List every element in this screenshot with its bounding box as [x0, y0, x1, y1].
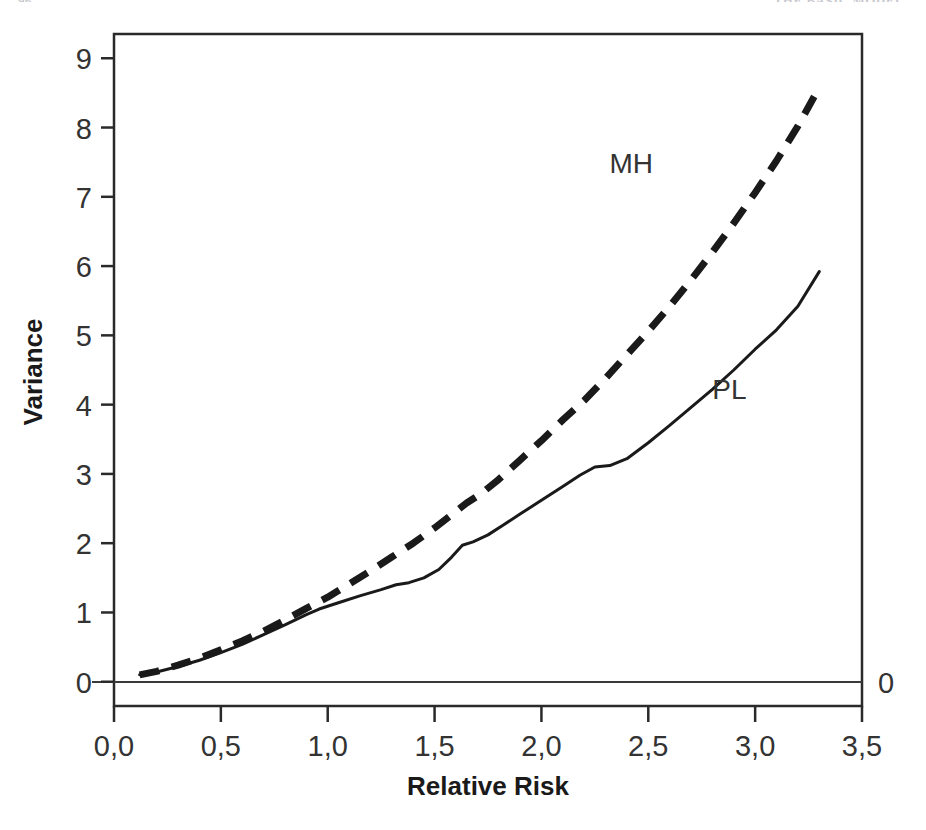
y-tick-label-2: 2: [76, 528, 92, 560]
y-axis-tick-labels: 0123456789: [76, 43, 92, 699]
figure-page: 96 THE BASIC MODEL 0123456789 0,00,51,01…: [0, 0, 926, 830]
x-axis-ticks: [114, 706, 862, 722]
y-tick-label-8: 8: [76, 113, 92, 145]
y-tick-label-3: 3: [76, 459, 92, 491]
x-tick-label-1,0: 1,0: [308, 730, 348, 762]
y-tick-label-4: 4: [76, 390, 92, 422]
y-tick-label-1: 1: [76, 597, 92, 629]
y-tick-label-9: 9: [76, 43, 92, 75]
chart-canvas: 0123456789 0,00,51,01,52,02,53,03,5 MHPL…: [0, 0, 926, 830]
x-tick-label-3,0: 3,0: [735, 730, 775, 762]
x-tick-label-2,0: 2,0: [521, 730, 561, 762]
plot-frame: [114, 34, 862, 706]
y-tick-label-7: 7: [76, 182, 92, 214]
x-tick-label-0,5: 0,5: [201, 730, 241, 762]
x-axis-title: Relative Risk: [407, 771, 569, 801]
series-annotations-group: MHPL: [609, 148, 746, 406]
y-tick-label-0: 0: [76, 667, 92, 699]
series-label-pl: PL: [712, 374, 746, 405]
y-tick-label-5: 5: [76, 320, 92, 352]
zero-line-right-label: 0: [878, 667, 894, 699]
x-tick-label-2,5: 2,5: [628, 730, 668, 762]
y-axis-ticks: [101, 58, 114, 682]
x-tick-label-3,5: 3,5: [842, 730, 882, 762]
x-tick-label-0,0: 0,0: [94, 730, 134, 762]
x-tick-label-1,5: 1,5: [414, 730, 454, 762]
series-label-mh: MH: [609, 148, 653, 179]
variance-vs-relative-risk-chart: 0123456789 0,00,51,01,52,02,53,03,5 MHPL…: [0, 0, 926, 830]
x-axis-tick-labels: 0,00,51,01,52,02,53,03,5: [94, 730, 882, 762]
series-line-pl: [140, 272, 820, 675]
y-tick-label-6: 6: [76, 251, 92, 283]
y-axis-title: Variance: [18, 319, 48, 426]
